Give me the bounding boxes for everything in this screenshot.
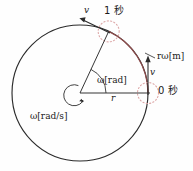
center-dot — [81, 100, 83, 102]
velocity-arrow-1-sec — [82, 20, 110, 34]
time-label-0-sec: 0 秒 — [158, 86, 178, 96]
angle-label: ω[rad] — [97, 76, 127, 85]
figure-canvas: v 1 秒 rω[m] v 0 秒 ω[rad] r ω[rad/s] — [0, 0, 193, 171]
velocity-label-0-sec: v — [150, 68, 155, 77]
arc-length-label: rω[m] — [157, 52, 184, 61]
rotation-spiral-icon — [64, 85, 83, 106]
angular-velocity-label: ω[rad/s] — [30, 112, 67, 121]
arc-length-leader-line — [145, 53, 155, 58]
velocity-label-1-sec: v — [84, 6, 89, 15]
time-label-1-sec: 1 秒 — [104, 6, 124, 16]
velocity-arrowhead-0-sec-icon — [145, 56, 150, 63]
velocity-arrowhead-1-sec-icon — [79, 17, 85, 22]
radius-label: r — [111, 94, 115, 103]
